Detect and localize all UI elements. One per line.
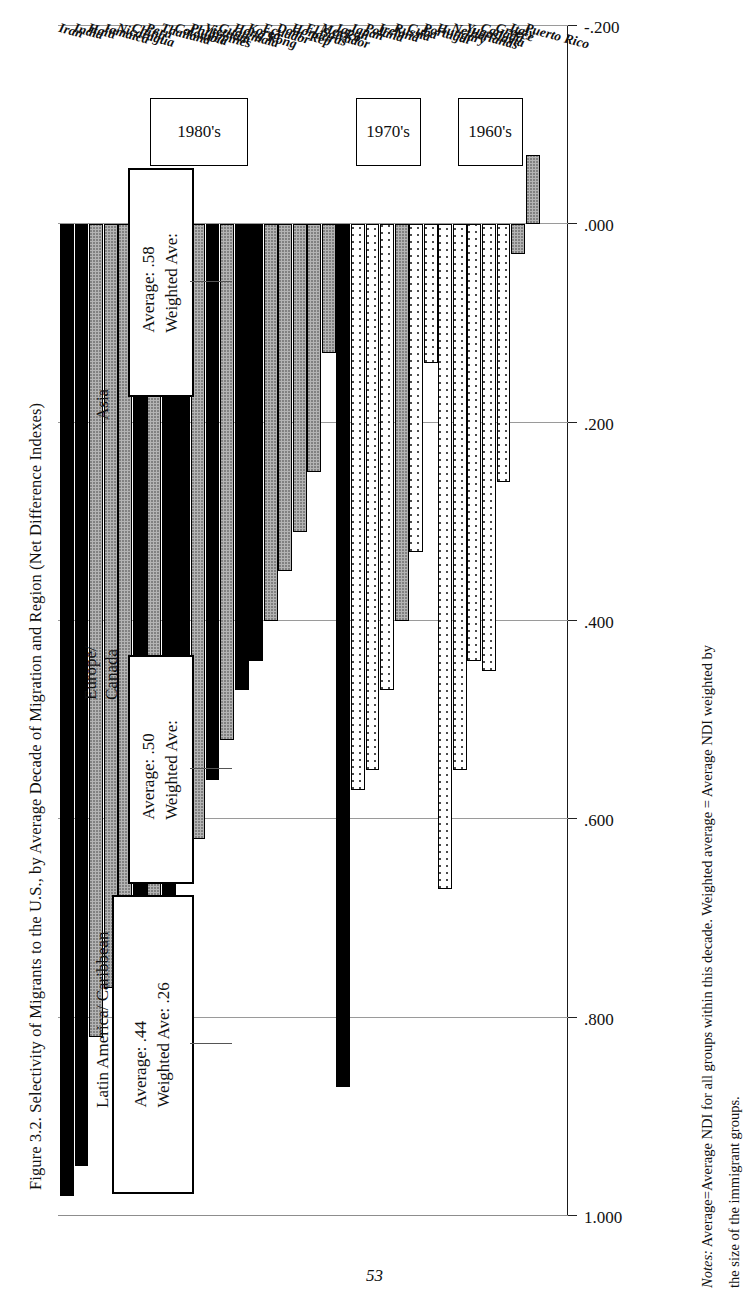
decade-label: 1960's: [468, 122, 512, 142]
plot-left-edge: [58, 1215, 568, 1216]
figure-caption: Figure 3.2. Selectivity of Migrants to t…: [26, 403, 46, 1190]
average-value: Average: .50: [138, 720, 161, 820]
axis-tick: [568, 25, 577, 26]
bar: [220, 224, 234, 740]
bar: [206, 224, 220, 779]
axis-tick-label: .200: [584, 415, 614, 435]
bar: [60, 224, 74, 1196]
bar: [366, 224, 380, 769]
average-value: Average: .44: [130, 982, 153, 1107]
average-leader-line: [190, 1043, 232, 1044]
decade-callout-1960: 1960's: [458, 98, 523, 166]
decade-callout-1970: 1970's: [356, 98, 421, 166]
average-box-1970: Average: .50Weighted Ave:: [128, 655, 194, 884]
axis-tick-label: -.200: [584, 18, 619, 38]
legend-label: Latin America/ Caribbean: [92, 931, 113, 1108]
decade-label: 1970's: [367, 122, 411, 142]
legend-label: Asia: [92, 389, 113, 420]
decade-callout-1980: 1980's: [150, 98, 248, 166]
axis-tick: [568, 1215, 577, 1216]
bar: [438, 224, 452, 888]
bar: [89, 224, 103, 1037]
axis-tick: [568, 422, 577, 423]
axis-tick: [568, 223, 577, 224]
bar: [264, 224, 278, 621]
bar: [380, 224, 394, 690]
weighted-average-value: Weighted Ave: .26: [153, 982, 176, 1107]
axis-tick-label: .800: [584, 1010, 614, 1030]
bar: [249, 224, 263, 660]
bar: [307, 224, 321, 472]
category-axis-line: [567, 26, 568, 1216]
average-box-1980: Average: .58Weighted Ave:: [128, 168, 194, 397]
weighted-average-value: Weighted Ave:: [161, 233, 184, 333]
average-leader-line: [190, 281, 232, 282]
figure-page: Figure 3.2. Selectivity of Migrants to t…: [0, 0, 749, 1294]
notes-line-2: the size of the immigrant groups.: [726, 1096, 742, 1288]
axis-tick-label: 1.000: [584, 1208, 622, 1228]
average-text: Average: .44Weighted Ave: .26: [130, 982, 176, 1107]
bar: [409, 224, 423, 551]
bar: [497, 224, 511, 482]
average-value: Average: .58: [138, 233, 161, 333]
bar: [336, 224, 350, 1087]
legend-label: Europe/ Canada: [80, 646, 123, 700]
axis-tick-label: .600: [584, 811, 614, 831]
decade-label: 1980's: [177, 122, 221, 142]
average-text: Average: .58Weighted Ave:: [138, 233, 184, 333]
bar: [453, 224, 467, 769]
figure-notes: Notes: Average=Average NDI for all group…: [694, 18, 748, 1288]
axis-tick-label: .000: [584, 216, 614, 236]
page-number: 53: [0, 1266, 749, 1286]
axis-tick-label: .400: [584, 613, 614, 633]
bar: [395, 224, 409, 621]
bar: [235, 224, 249, 690]
bar: [511, 224, 525, 254]
bar: [322, 224, 336, 353]
average-text: Average: .50Weighted Ave:: [138, 720, 184, 820]
bar: [482, 224, 496, 670]
bar: [424, 224, 438, 363]
axis-tick: [568, 818, 577, 819]
bar: [293, 224, 307, 531]
axis-tick: [568, 1017, 577, 1018]
notes-line-1: Average=Average NDI for all groups withi…: [699, 645, 715, 1247]
weighted-average-value: Weighted Ave:: [161, 720, 184, 820]
axis-tick: [568, 620, 577, 621]
bar: [104, 224, 118, 988]
bar: [526, 155, 540, 224]
average-leader-line: [190, 768, 232, 769]
bar: [467, 224, 481, 660]
bar: [278, 224, 292, 571]
bar: [351, 224, 365, 789]
average-box-1960: Average: .44Weighted Ave: .26: [112, 895, 194, 1194]
